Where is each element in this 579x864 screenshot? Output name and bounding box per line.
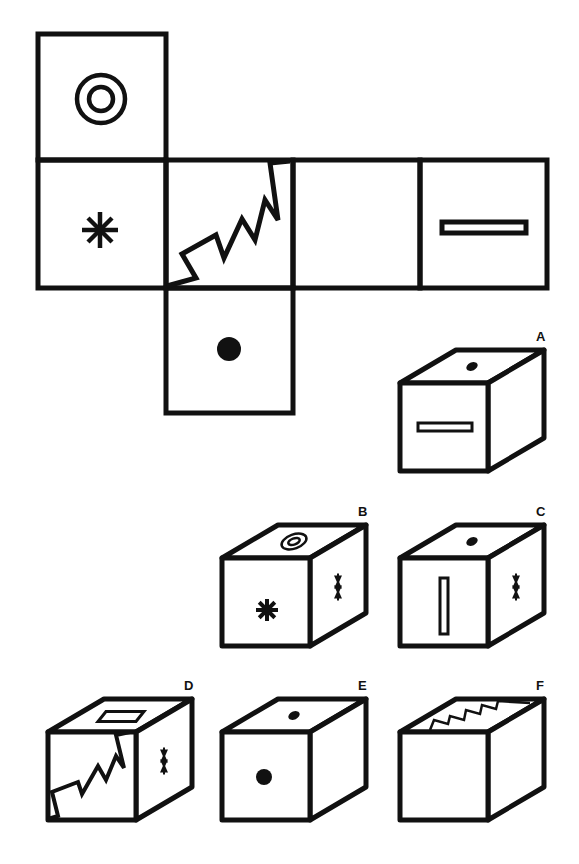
cube-front-face — [400, 383, 488, 471]
zigzag-icon — [167, 161, 290, 286]
option-label: E — [358, 678, 367, 693]
bowtie-icon — [512, 574, 520, 601]
option-label: A — [536, 329, 546, 344]
cube-front-face — [400, 732, 488, 820]
cube-option-b[interactable]: B — [222, 504, 367, 646]
puzzle-canvas: ABCDEF — [0, 0, 579, 864]
cube-option-c[interactable]: C — [400, 504, 546, 646]
cube-option-a[interactable]: A — [400, 329, 546, 471]
dot-icon — [217, 337, 241, 361]
net-face-right — [293, 160, 420, 288]
option-label: B — [358, 504, 367, 519]
bowtie-icon — [334, 574, 342, 601]
option-label: F — [536, 678, 544, 693]
option-label: D — [184, 678, 193, 693]
dot-icon — [256, 769, 272, 785]
option-label: C — [536, 504, 546, 519]
asterisk-icon — [82, 212, 118, 248]
cube-option-e[interactable]: E — [222, 678, 367, 820]
cube-option-f[interactable]: F — [400, 678, 544, 820]
asterisk-icon — [256, 599, 278, 621]
net-face-top — [38, 34, 166, 160]
net-symbols — [77, 75, 526, 361]
double-circle-icon — [77, 75, 125, 123]
bar-rectangle-icon — [442, 222, 526, 233]
answer-options: ABCDEF — [48, 329, 546, 820]
bowtie-icon — [160, 748, 168, 775]
cube-option-d[interactable]: D — [48, 678, 193, 820]
